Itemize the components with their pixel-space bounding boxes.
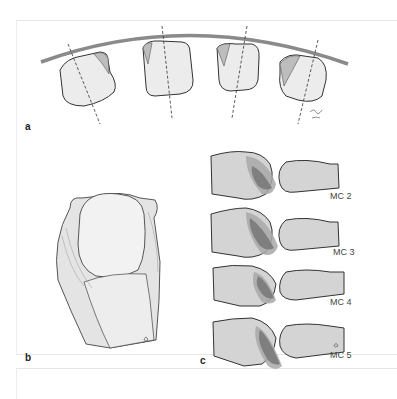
panel-label-c: c <box>200 355 206 366</box>
mc5-label: MC 5 <box>330 350 352 360</box>
panel-label-a: a <box>25 121 31 132</box>
panel-b-drawing <box>57 193 161 348</box>
mc3-label: MC 3 <box>333 247 355 257</box>
panel-label-b: b <box>25 352 31 363</box>
mc2-label: MC 2 <box>330 191 352 201</box>
panel-a-drawing <box>41 26 348 124</box>
mc4-label: MC 4 <box>330 297 352 307</box>
panel-c-drawing <box>211 152 344 370</box>
